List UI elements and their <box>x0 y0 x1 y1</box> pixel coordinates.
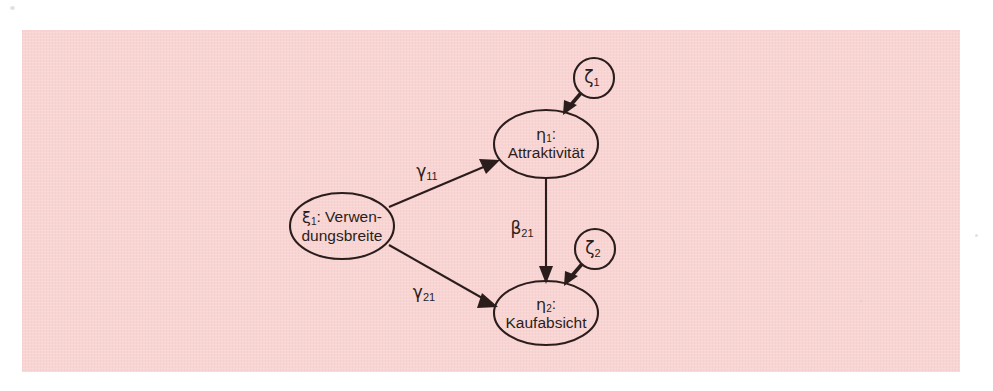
node-eta2[interactable]: η2: Kaufabsicht <box>494 281 598 345</box>
node-xi1-label-line1: ξ1: Verwen- <box>302 208 382 227</box>
edge-gamma11: γ11 <box>389 159 500 207</box>
node-xi1-label-line2: dungsbreite <box>301 227 382 244</box>
node-zeta1[interactable]: ζ1 <box>574 58 614 98</box>
node-eta1[interactable]: η1: Attraktivität <box>494 110 598 178</box>
edge-gamma21: γ21 <box>389 245 498 308</box>
edge-label-beta21: β21 <box>510 218 533 239</box>
node-zeta2[interactable]: ζ2 <box>575 229 615 269</box>
node-xi1[interactable]: ξ1: Verwen- dungsbreite <box>290 193 394 259</box>
path-diagram: γ11 γ21 β21 <box>0 0 993 391</box>
node-eta1-label-line1: η1: <box>536 125 556 144</box>
scan-speck <box>10 6 15 10</box>
edge-label-gamma21: γ21 <box>413 282 435 303</box>
edge-label-gamma11: γ11 <box>416 161 437 182</box>
scan-speck <box>975 234 978 237</box>
node-eta2-label-line2: Kaufabsicht <box>506 314 588 331</box>
node-zeta2-label: ζ2 <box>585 238 600 259</box>
scan-speck <box>860 300 862 302</box>
figure-canvas: γ11 γ21 β21 <box>0 0 993 391</box>
node-zeta1-label: ζ1 <box>584 67 599 88</box>
node-eta2-label-line1: η2: <box>536 295 556 314</box>
edge-beta21: β21 <box>510 178 553 284</box>
node-eta1-label-line2: Attraktivität <box>508 144 585 161</box>
